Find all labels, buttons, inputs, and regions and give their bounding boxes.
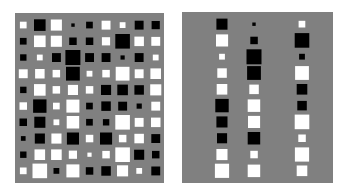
negative-weight-cell <box>247 49 262 64</box>
positive-weight-cell <box>34 84 46 96</box>
positive-weight-cell <box>153 55 159 61</box>
negative-weight-cell <box>101 166 111 176</box>
positive-weight-cell <box>102 70 110 78</box>
negative-weight-cell <box>134 150 144 160</box>
positive-weight-cell <box>51 134 61 144</box>
negative-weight-cell <box>115 34 130 49</box>
positive-weight-cell <box>151 37 160 46</box>
negative-weight-cell <box>20 38 27 45</box>
negative-weight-cell <box>151 167 160 176</box>
negative-weight-cell <box>65 50 80 65</box>
positive-weight-cell <box>295 147 309 161</box>
negative-weight-cell <box>20 119 28 127</box>
negative-weight-cell <box>20 87 26 93</box>
negative-weight-cell <box>67 133 79 145</box>
positive-weight-cell <box>250 151 257 159</box>
negative-weight-cell <box>297 84 308 95</box>
positive-weight-cell <box>115 115 130 130</box>
negative-weight-cell <box>248 132 261 145</box>
positive-weight-cell <box>248 116 260 128</box>
positive-weight-cell <box>219 54 225 60</box>
negative-weight-cell <box>71 23 74 26</box>
negative-weight-cell <box>52 53 61 62</box>
positive-weight-cell <box>115 147 130 162</box>
negative-weight-cell <box>152 21 160 29</box>
negative-weight-cell <box>250 37 257 45</box>
positive-weight-cell <box>216 34 228 46</box>
negative-weight-cell <box>137 104 142 109</box>
positive-weight-cell <box>20 168 27 175</box>
negative-weight-cell <box>121 55 125 59</box>
negative-weight-cell <box>101 85 111 95</box>
negative-weight-cell <box>86 38 94 46</box>
positive-weight-cell <box>248 165 261 178</box>
positive-weight-cell <box>135 69 144 78</box>
negative-weight-cell <box>35 134 45 144</box>
positive-weight-cell <box>136 168 142 174</box>
positive-weight-cell <box>215 164 229 178</box>
negative-weight-cell <box>54 168 60 174</box>
negative-weight-cell <box>69 38 77 46</box>
positive-weight-cell <box>150 84 161 95</box>
negative-weight-cell <box>117 85 128 96</box>
negative-weight-cell <box>252 23 255 26</box>
positive-weight-cell <box>66 100 79 113</box>
negative-weight-cell <box>101 101 111 111</box>
negative-weight-cell <box>34 117 45 128</box>
positive-weight-cell <box>217 68 227 78</box>
positive-weight-cell <box>67 116 80 129</box>
positive-weight-cell <box>51 20 62 31</box>
negative-weight-cell <box>118 102 127 111</box>
negative-weight-cell <box>134 85 144 95</box>
positive-weight-cell <box>35 149 46 160</box>
negative-weight-cell <box>103 119 109 125</box>
positive-weight-cell <box>53 86 61 94</box>
negative-weight-cell <box>152 151 160 159</box>
negative-weight-cell <box>102 53 111 62</box>
negative-weight-cell <box>66 67 80 81</box>
negative-weight-cell <box>86 167 94 175</box>
positive-weight-cell <box>54 119 60 125</box>
negative-weight-cell <box>100 133 112 145</box>
negative-weight-cell <box>151 134 160 143</box>
positive-weight-cell <box>116 67 130 81</box>
negative-weight-cell <box>20 54 26 60</box>
hinton-figure <box>0 0 340 188</box>
positive-weight-cell <box>298 135 306 143</box>
negative-weight-cell <box>20 152 26 158</box>
positive-weight-cell <box>51 149 62 160</box>
positive-weight-cell <box>37 55 43 61</box>
positive-weight-cell <box>151 102 160 111</box>
positive-weight-cell <box>135 118 144 127</box>
negative-weight-cell <box>86 119 93 126</box>
negative-weight-cell <box>216 116 227 127</box>
negative-weight-cell <box>216 19 227 30</box>
positive-weight-cell <box>299 21 306 28</box>
positive-weight-cell <box>66 164 79 177</box>
negative-weight-cell <box>85 53 94 62</box>
negative-weight-cell <box>297 101 307 111</box>
positive-weight-cell <box>295 66 309 80</box>
negative-weight-cell <box>135 53 144 62</box>
positive-weight-cell <box>248 99 261 112</box>
positive-weight-cell <box>34 36 46 48</box>
positive-weight-cell <box>295 115 310 130</box>
positive-weight-cell <box>120 22 126 28</box>
negative-weight-cell <box>33 99 46 112</box>
positive-weight-cell <box>217 84 228 95</box>
negative-weight-cell <box>299 54 305 60</box>
positive-weight-cell <box>151 118 161 128</box>
positive-weight-cell <box>53 70 61 78</box>
negative-weight-cell <box>135 21 144 30</box>
positive-weight-cell <box>102 151 110 159</box>
positive-weight-cell <box>297 166 308 177</box>
negative-weight-cell <box>86 22 93 29</box>
positive-weight-cell <box>87 153 91 157</box>
negative-weight-cell <box>247 66 261 80</box>
negative-weight-cell <box>86 103 93 110</box>
positive-weight-cell <box>87 71 93 77</box>
positive-weight-cell <box>86 135 94 143</box>
positive-weight-cell <box>35 69 45 79</box>
positive-weight-cell <box>134 37 144 47</box>
positive-weight-cell <box>19 69 28 78</box>
